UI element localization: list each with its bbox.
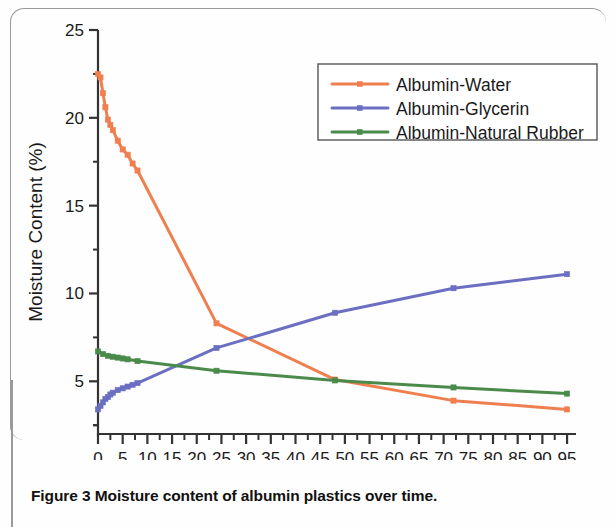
data-point-marker xyxy=(120,147,125,152)
data-point-marker xyxy=(110,390,115,395)
x-tick-label: 65 xyxy=(409,449,428,460)
data-point-marker xyxy=(120,356,125,361)
data-point-marker xyxy=(125,357,130,362)
x-tick-label: 90 xyxy=(533,449,552,460)
x-tick-label: 50 xyxy=(335,449,354,460)
x-tick-label: 85 xyxy=(508,449,527,460)
x-tick-label: 35 xyxy=(261,449,280,460)
data-point-marker xyxy=(451,385,456,390)
x-tick-label: 60 xyxy=(385,449,404,460)
series-line xyxy=(98,351,567,393)
x-tick-label: 75 xyxy=(459,449,478,460)
line-chart: 5101520250510152025303540455055606570758… xyxy=(0,0,614,460)
x-tick-label: 25 xyxy=(212,449,231,460)
x-tick-label: 20 xyxy=(187,449,206,460)
data-point-marker xyxy=(100,91,105,96)
figure-caption-text: Moisture content of albumin plastics ove… xyxy=(95,487,437,504)
data-point-marker xyxy=(135,380,140,385)
y-tick-label: 20 xyxy=(65,109,84,128)
x-tick-label: 80 xyxy=(484,449,503,460)
legend[interactable]: Albumin-WaterAlbumin-GlycerinAlbumin-Nat… xyxy=(318,64,597,143)
data-point-marker xyxy=(125,384,130,389)
data-point-marker xyxy=(120,386,125,391)
x-tick-label: 10 xyxy=(138,449,157,460)
x-tick-label: 55 xyxy=(360,449,379,460)
data-point-marker xyxy=(332,310,337,315)
data-point-marker xyxy=(451,398,456,403)
data-point-marker xyxy=(103,105,108,110)
data-point-marker xyxy=(451,286,456,291)
data-point-marker xyxy=(115,138,120,143)
series-3 xyxy=(95,349,569,396)
data-point-marker xyxy=(105,353,110,358)
data-point-marker xyxy=(564,407,569,412)
y-tick-label: 5 xyxy=(75,372,84,391)
x-tick-label: 45 xyxy=(311,449,330,460)
y-axis-title-group: Moisture Content (%) xyxy=(25,142,46,322)
data-point-marker xyxy=(95,349,100,354)
data-point-marker xyxy=(564,391,569,396)
y-tick-label: 10 xyxy=(65,284,84,303)
x-tick-label: 70 xyxy=(434,449,453,460)
x-tick-label: 15 xyxy=(163,449,182,460)
data-point-marker xyxy=(564,272,569,277)
data-point-marker xyxy=(105,117,110,122)
x-tick-label: 0 xyxy=(93,449,102,460)
data-point-marker xyxy=(100,351,105,356)
legend-label: Albumin-Glycerin xyxy=(396,99,529,119)
data-point-marker xyxy=(115,355,120,360)
data-point-marker xyxy=(214,321,219,326)
x-tick-label: 5 xyxy=(118,449,127,460)
y-tick-label: 15 xyxy=(65,197,84,216)
x-tick-label: 30 xyxy=(237,449,256,460)
data-point-marker xyxy=(125,152,130,157)
legend-swatch-marker xyxy=(357,81,363,87)
x-tick-label: 40 xyxy=(286,449,305,460)
data-point-marker xyxy=(135,359,140,364)
figure-number: Figure 3 xyxy=(31,487,91,504)
y-tick-label: 25 xyxy=(65,21,84,40)
legend-label: Albumin-Water xyxy=(396,75,511,95)
data-point-marker xyxy=(130,161,135,166)
figure-caption: Figure 3 Moisture content of albumin pla… xyxy=(31,487,591,505)
legend-swatch-marker xyxy=(357,105,363,111)
chart-plot-area: 5101520250510152025303540455055606570758… xyxy=(0,0,614,460)
y-axis-title: Moisture Content (%) xyxy=(25,142,46,322)
data-point-marker xyxy=(135,168,140,173)
figure-container: 5101520250510152025303540455055606570758… xyxy=(0,0,614,527)
data-point-marker xyxy=(115,387,120,392)
data-point-marker xyxy=(110,354,115,359)
data-point-marker xyxy=(110,128,115,133)
legend-label: Albumin-Natural Rubber xyxy=(396,123,584,143)
data-point-marker xyxy=(130,382,135,387)
data-point-marker xyxy=(214,368,219,373)
x-tick-label: 95 xyxy=(558,449,577,460)
data-point-marker xyxy=(98,75,103,80)
data-point-marker xyxy=(332,378,337,383)
data-point-marker xyxy=(214,345,219,350)
legend-swatch-marker xyxy=(357,129,363,135)
data-point-marker xyxy=(108,122,113,127)
